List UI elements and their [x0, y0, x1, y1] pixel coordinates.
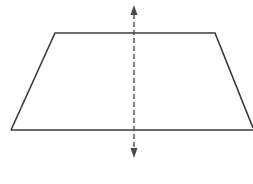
arrow-up-icon	[131, 5, 138, 15]
trapezoid-outline	[11, 33, 253, 130]
arrow-down-icon	[131, 148, 138, 158]
trapezoid-symmetry-diagram	[0, 0, 253, 184]
